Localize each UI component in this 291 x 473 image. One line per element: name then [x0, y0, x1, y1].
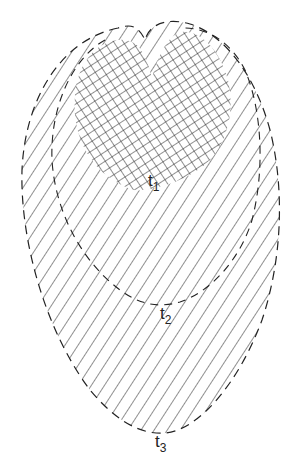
region-diagram: t1 t2 t3 — [0, 0, 291, 473]
label-t3: t3 — [155, 432, 167, 455]
